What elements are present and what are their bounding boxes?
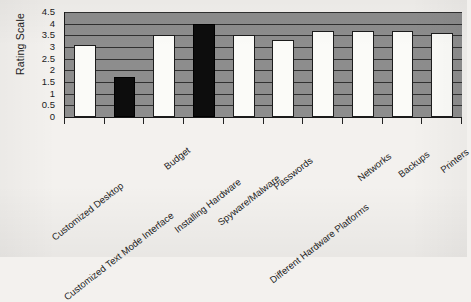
y-axis-tick-label: 1 <box>50 89 55 99</box>
bar-slot <box>343 12 383 117</box>
bars-container <box>65 12 462 117</box>
bar-slot <box>105 12 145 117</box>
x-axis-tick-label: Customized Desktop <box>49 180 125 243</box>
x-axis-tick-label: Different Hardware Platforms <box>268 201 371 285</box>
y-axis-tick-label: 4.5 <box>42 7 55 17</box>
y-axis-tick-label: 1.5 <box>42 77 55 87</box>
bar-slot <box>224 12 264 117</box>
y-axis-tick-label: 0 <box>50 112 55 122</box>
y-axis-tick-label: 4 <box>50 19 55 29</box>
bar <box>74 45 96 117</box>
bar <box>431 33 453 117</box>
bar-slot <box>264 12 304 117</box>
bar-slot <box>65 12 105 117</box>
bar-slot <box>184 12 224 117</box>
x-axis-tick-label: Budget <box>162 145 193 172</box>
y-axis-tick-label: 0.5 <box>42 101 55 111</box>
x-axis-tick-labels: Customized DesktopCustomized Text Mode I… <box>0 124 467 249</box>
x-axis-tick-label: Printers <box>438 146 471 175</box>
bar <box>272 40 294 117</box>
y-axis-tick-label: 3 <box>50 42 55 52</box>
bar <box>153 35 175 117</box>
y-axis-tick-label: 3.5 <box>42 31 55 41</box>
x-axis-tick-label: Backups <box>396 148 431 179</box>
bar <box>392 31 414 117</box>
bar-slot <box>383 12 423 117</box>
bar <box>114 77 136 117</box>
bar-slot <box>303 12 343 117</box>
y-axis-tick-label: 2 <box>50 66 55 76</box>
bar <box>233 35 255 117</box>
y-axis-tick-label: 2.5 <box>42 54 55 64</box>
x-axis-tick-label: Spyware/Malware <box>215 172 281 227</box>
bar <box>312 31 334 117</box>
bar-slot <box>144 12 184 117</box>
y-axis-tick-labels: 00.511.522.533.544.5 <box>22 0 55 130</box>
bar-slot <box>422 12 462 117</box>
bar <box>352 31 374 117</box>
x-axis-tick-label: Networks <box>355 150 393 183</box>
bar <box>193 24 215 117</box>
plot-area <box>64 12 462 118</box>
x-axis-tick-label: Passwords <box>272 155 315 192</box>
